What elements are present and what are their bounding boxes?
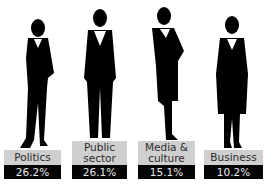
woman-silhouette-business-icon — [210, 14, 252, 148]
label-text: Business — [210, 152, 256, 163]
label-text-line2: sector — [83, 153, 116, 164]
value-public-sector: 26.1% — [72, 165, 127, 179]
woman-silhouette-media-culture-icon — [148, 6, 188, 142]
woman-silhouette-politics-icon — [14, 18, 58, 148]
category-label-business: Business — [204, 150, 263, 165]
value-media-culture: 15.1% — [138, 165, 195, 179]
value-business: 10.2% — [204, 165, 263, 179]
woman-silhouette-public-sector-icon — [80, 8, 120, 140]
category-label-public-sector: Public sector — [72, 141, 127, 165]
label-text-line2: culture — [148, 153, 185, 164]
category-label-media-culture: Media & culture — [138, 141, 195, 165]
category-label-politics: Politics — [4, 150, 61, 165]
value-politics: 26.2% — [4, 165, 61, 179]
label-text: Politics — [14, 152, 51, 163]
